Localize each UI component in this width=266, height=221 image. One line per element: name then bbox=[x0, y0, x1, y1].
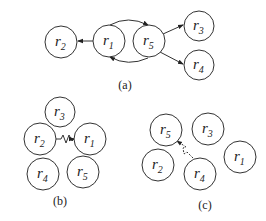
node-a-r4: r4 bbox=[184, 50, 214, 80]
node-c-r2: r2 bbox=[142, 149, 174, 181]
node-c-r1: r1 bbox=[224, 141, 256, 173]
node-a-r5: r5 bbox=[133, 25, 165, 57]
node-c-r5: r5 bbox=[150, 114, 182, 146]
edge-r1-r5-top bbox=[110, 20, 148, 25]
node-b-r3: r3 bbox=[45, 97, 75, 127]
node-b-r5: r5 bbox=[67, 156, 99, 188]
node-b-r1: r1 bbox=[74, 123, 106, 155]
edge-r5-r4 bbox=[160, 52, 183, 64]
node-c-r4: r4 bbox=[184, 158, 216, 190]
diagram-c: r5 r3 r2 r4 r1 (c) bbox=[142, 113, 256, 212]
edge-r2-r1-zigzag bbox=[56, 135, 74, 143]
node-a-r2: r2 bbox=[45, 26, 77, 58]
caption-b: (b) bbox=[53, 194, 67, 208]
caption-a: (a) bbox=[118, 78, 131, 92]
node-b-r4: r4 bbox=[27, 158, 59, 190]
diagram-b: r3 r2 r1 r4 r5 (b) bbox=[24, 97, 106, 208]
diagram-canvas: r2 r1 r5 r3 r4 (a) r3 r2 bbox=[0, 0, 266, 221]
caption-c: (c) bbox=[198, 198, 211, 212]
node-a-r3: r3 bbox=[184, 11, 214, 41]
edge-r5-r1-bottom bbox=[110, 57, 148, 62]
node-c-r3: r3 bbox=[192, 113, 224, 145]
edge-r5-r3 bbox=[163, 25, 183, 34]
diagram-a: r2 r1 r5 r3 r4 (a) bbox=[45, 11, 214, 92]
node-a-r1: r1 bbox=[93, 25, 125, 57]
edge-r4-r5-dashed-zigzag bbox=[180, 143, 193, 158]
node-b-r2: r2 bbox=[24, 123, 56, 155]
